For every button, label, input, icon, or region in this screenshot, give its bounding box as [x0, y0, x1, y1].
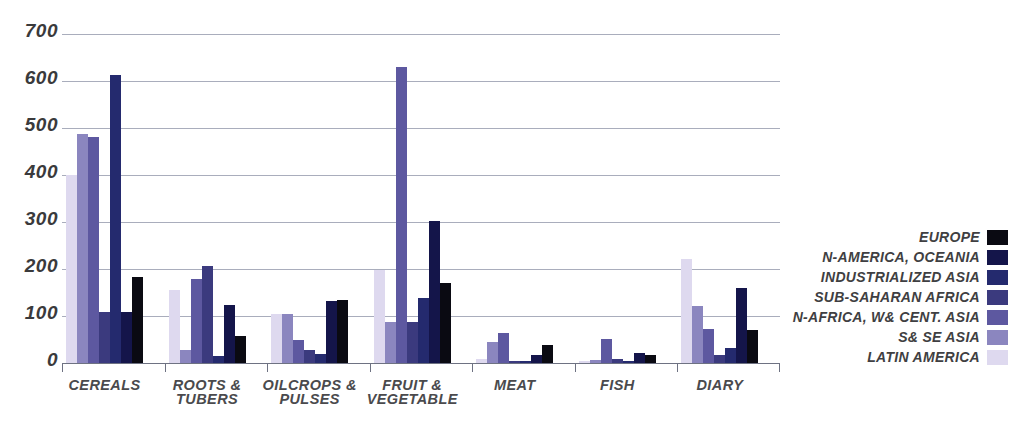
bar — [271, 314, 282, 363]
bar — [601, 339, 612, 363]
bar-group — [575, 34, 678, 363]
y-tick-label-100: 100 — [6, 302, 58, 324]
bar — [99, 312, 110, 363]
bar — [396, 67, 407, 363]
x-tick — [62, 363, 63, 372]
caption-strip — [6, 431, 426, 440]
x-tick — [370, 363, 371, 372]
y-tick-label-600: 600 — [6, 67, 58, 89]
legend-item[interactable]: S& SE ASIA — [898, 328, 1008, 346]
bar — [66, 175, 77, 363]
x-tick — [472, 363, 473, 372]
x-label-diary: DIARY — [696, 378, 743, 392]
legend-label: EUROPE — [919, 229, 980, 245]
bar — [374, 270, 385, 363]
y-tick-label-400: 400 — [6, 161, 58, 183]
legend-label: SUB-SAHARAN AFRICA — [814, 289, 980, 305]
legend-label: LATIN AMERICA — [867, 349, 980, 365]
x-tick — [267, 363, 268, 372]
bar — [213, 356, 224, 363]
bar-group — [165, 34, 268, 363]
y-tick-label-0: 0 — [6, 349, 58, 371]
bar — [681, 259, 692, 363]
bar — [315, 354, 326, 363]
legend-item[interactable]: LATIN AMERICA — [867, 348, 1008, 366]
y-tick-label-500: 500 — [6, 114, 58, 136]
bar — [634, 353, 645, 363]
bar — [224, 305, 235, 363]
legend-item[interactable]: EUROPE — [919, 228, 1008, 246]
bar — [282, 314, 293, 363]
bar — [304, 350, 315, 363]
x-tick — [779, 363, 780, 372]
bar — [498, 333, 509, 363]
bar-group — [370, 34, 473, 363]
bar — [531, 355, 542, 363]
bar — [645, 355, 656, 363]
bar — [293, 340, 304, 363]
bar — [202, 266, 213, 363]
bar — [736, 288, 747, 363]
legend-item[interactable]: INDUSTRIALIZED ASIA — [821, 268, 1008, 286]
y-tick-label-200: 200 — [6, 255, 58, 277]
bar — [326, 301, 337, 363]
bar — [418, 298, 429, 363]
x-label-oilcrops: OILCROPS & PULSES — [263, 378, 357, 406]
bar — [121, 312, 132, 363]
legend-swatch-icon — [987, 350, 1008, 365]
legend-label: INDUSTRIALIZED ASIA — [821, 269, 980, 285]
bar — [542, 345, 553, 363]
legend-label: N-AFRICA, W& CENT. ASIA — [793, 309, 980, 325]
y-tick-label-300: 300 — [6, 208, 58, 230]
bar — [110, 75, 121, 363]
bar — [429, 221, 440, 363]
bar-chart: 7006005004003002001000 CEREALSROOTS & TU… — [0, 0, 1016, 442]
bar — [169, 290, 180, 363]
x-label-fish: FISH — [600, 378, 635, 392]
bar — [88, 137, 99, 363]
bar — [180, 350, 191, 363]
bar — [714, 355, 725, 363]
x-tick — [165, 363, 166, 372]
y-tick-label-700: 700 — [6, 20, 58, 42]
legend-swatch-icon — [987, 290, 1008, 305]
legend-swatch-icon — [987, 310, 1008, 325]
legend-item[interactable]: SUB-SAHARAN AFRICA — [814, 288, 1008, 306]
bar — [440, 283, 451, 363]
legend-label: S& SE ASIA — [898, 329, 980, 345]
x-axis-labels: CEREALSROOTS & TUBERSOILCROPS & PULSESFR… — [62, 378, 780, 426]
bar-group — [267, 34, 370, 363]
bar — [337, 300, 348, 363]
bar — [747, 330, 758, 363]
x-label-cereals: CEREALS — [68, 378, 140, 392]
x-label-meat: MEAT — [494, 378, 536, 392]
legend-swatch-icon — [987, 330, 1008, 345]
legend-label: N-AMERICA, OCEANIA — [822, 249, 980, 265]
bar — [235, 336, 246, 363]
bar — [692, 306, 703, 363]
bar — [132, 277, 143, 363]
legend-swatch-icon — [987, 250, 1008, 265]
legend: EUROPEN-AMERICA, OCEANIAINDUSTRIALIZED A… — [793, 228, 1008, 366]
bar-groups — [62, 34, 780, 363]
bar — [725, 348, 736, 363]
bar-group — [62, 34, 165, 363]
legend-item[interactable]: N-AMERICA, OCEANIA — [822, 248, 1008, 266]
bar — [385, 322, 396, 363]
bar-group — [472, 34, 575, 363]
bar — [703, 329, 714, 363]
x-tick — [575, 363, 576, 372]
legend-swatch-icon — [987, 230, 1008, 245]
x-label-roots: ROOTS & TUBERS — [173, 378, 242, 406]
y-axis: 7006005004003002001000 — [0, 34, 58, 363]
bar — [487, 342, 498, 363]
bar — [77, 134, 88, 363]
legend-item[interactable]: N-AFRICA, W& CENT. ASIA — [793, 308, 1008, 326]
bar — [407, 322, 418, 363]
x-axis-line — [62, 363, 780, 364]
bar-group — [677, 34, 780, 363]
x-label-fruit: FRUIT & VEGETABLE — [367, 378, 458, 406]
x-tick — [677, 363, 678, 372]
bar — [191, 279, 202, 363]
legend-swatch-icon — [987, 270, 1008, 285]
